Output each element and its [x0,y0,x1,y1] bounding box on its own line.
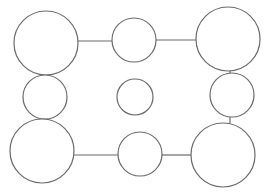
node-top-left [14,11,78,75]
node-top-middle [112,18,156,62]
node-bottom-left [10,119,74,183]
node-bottom-middle [118,132,162,176]
node-layer [10,7,260,187]
diagram-canvas [0,0,267,195]
node-middle-right [210,73,254,117]
node-graph [0,0,267,195]
node-middle-left [23,75,67,119]
node-center [117,79,153,115]
node-bottom-right [191,123,255,187]
node-top-right [196,7,260,71]
